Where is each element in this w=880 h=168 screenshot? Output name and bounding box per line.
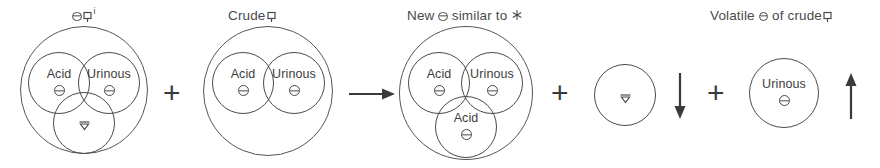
circle-label-acid: Acid (436, 112, 496, 125)
vinegar-icon (595, 89, 655, 106)
operator-plus-3: + (707, 78, 725, 108)
retort-icon (266, 9, 277, 23)
operator-arrow-down (672, 72, 688, 120)
circle-label-acid: Acid (409, 68, 469, 81)
vinegar-icon (54, 116, 114, 133)
caption-text-new: New (407, 8, 434, 23)
group-4 (594, 64, 658, 128)
group-2-circle-urinous: Urinous (263, 52, 325, 114)
group-4-circle-vinegar (594, 64, 656, 126)
operator-arrow-up (843, 72, 859, 120)
group-2: Acid Urinous (203, 26, 335, 158)
diagram-canvas: i Acid Urinous + Crude (0, 0, 880, 168)
caption-text-volatile: Volatile (710, 8, 755, 23)
salt-icon (264, 82, 324, 99)
caption-text-similar-to: similar to (452, 8, 508, 23)
group-5-circle-urinous: Urinous (749, 58, 819, 128)
circle-label-urinous: Urinous (462, 68, 522, 81)
caption-group-2: Crude (228, 8, 277, 23)
caption-group-3: New similar to (407, 8, 523, 23)
circle-label-urinous: Urinous (750, 78, 818, 91)
group-3: Acid Urinous Acid (399, 26, 535, 162)
salt-icon (759, 12, 769, 22)
caption-group-1: i (72, 6, 96, 23)
retort-icon (82, 9, 93, 23)
salt-icon (438, 12, 448, 22)
salt-icon (436, 126, 496, 143)
salt-icon (72, 12, 82, 22)
caption-superscript: i (94, 6, 96, 16)
caption-group-5: Volatile of crude (710, 8, 833, 23)
circle-label-urinous: Urinous (79, 68, 139, 81)
group-1: Acid Urinous (20, 24, 150, 156)
group-3-circle-acid-bottom: Acid (435, 96, 497, 158)
group-1-circle-vinegar (53, 92, 115, 154)
star-icon (511, 9, 523, 21)
caption-text-crude: Crude (228, 8, 266, 23)
operator-arrow-right (348, 86, 396, 102)
salt-icon (750, 92, 818, 109)
group-5: Urinous (749, 58, 821, 130)
operator-plus-1: + (163, 78, 181, 108)
retort-icon (822, 9, 833, 23)
operator-plus-2: + (551, 78, 569, 108)
circle-label-urinous: Urinous (264, 68, 324, 81)
caption-text-of-crude: of crude (772, 8, 822, 23)
